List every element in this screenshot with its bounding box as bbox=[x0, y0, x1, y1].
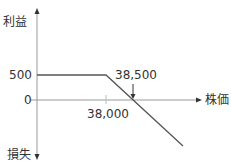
y-axis-down-arrow-icon bbox=[35, 154, 40, 160]
x-axis-arrow-icon bbox=[196, 98, 202, 103]
x-tick-label-38000: 38,000 bbox=[87, 108, 129, 120]
x-axis-label: 株価 bbox=[205, 94, 229, 106]
y-axis-top-label: 利益 bbox=[3, 16, 27, 28]
y-axis-up-arrow-icon bbox=[35, 8, 40, 14]
y-tick-0: 0 bbox=[24, 94, 32, 106]
annotation-38500: 38,500 bbox=[115, 69, 157, 81]
payoff-diagram bbox=[0, 0, 231, 164]
y-tick-500: 500 bbox=[9, 69, 32, 81]
y-axis-bottom-label: 損失 bbox=[7, 149, 31, 161]
